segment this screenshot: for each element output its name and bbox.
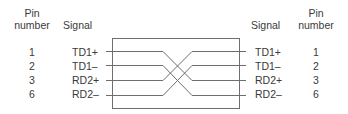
cable-enclosure-box [113,39,240,109]
crossover-wiring-diagram [0,0,348,114]
